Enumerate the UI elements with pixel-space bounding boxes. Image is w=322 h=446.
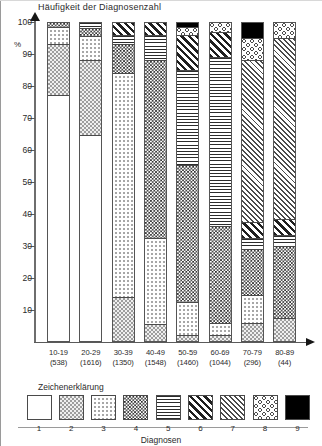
stacked-bar[interactable] (144, 22, 167, 342)
legend-item-5[interactable]: 5 (153, 395, 183, 433)
chart-root: Häufigkeit der Diagnosenzahl % 102030405… (0, 0, 322, 446)
legend-swatch-horizontal-lines (156, 395, 181, 420)
bar-segment-5 (113, 36, 134, 46)
y-axis-tick-label: 80 (23, 81, 32, 91)
bar-segment-8 (177, 28, 198, 36)
bar-segment-6 (210, 33, 231, 58)
y-axis-line (34, 20, 36, 342)
bar-segment-3 (145, 239, 166, 325)
y-axis-tick-label: 20 (23, 273, 32, 283)
bar-segment-3 (48, 28, 69, 45)
legend-swatch-thick-diagonal (188, 395, 213, 420)
bar-segment-2 (113, 298, 134, 341)
bar-segment-6 (145, 23, 166, 36)
legend-label: 4 (121, 424, 151, 433)
legend-item-8[interactable]: 8 (250, 395, 280, 433)
bar-segment-4 (80, 29, 101, 37)
x-axis-arrow-icon (306, 338, 315, 346)
stacked-bar[interactable] (241, 22, 264, 342)
bar-segment-5 (242, 239, 263, 250)
y-axis-tick-label: 60 (23, 145, 32, 155)
bar-segment-2 (242, 324, 263, 341)
y-axis-tick-label: 30 (23, 241, 32, 251)
stacked-bar[interactable] (209, 22, 232, 342)
x-axis-category-count: (44) (262, 358, 308, 367)
y-axis-tick-label: 40 (23, 209, 32, 219)
legend-swatch-fine-hatch (220, 395, 245, 420)
stacked-bar[interactable] (273, 22, 296, 342)
legend-item-2[interactable]: 2 (56, 395, 86, 433)
stacked-bar[interactable] (112, 22, 135, 342)
bar-segment-9 (242, 23, 263, 39)
legend-label: 5 (153, 424, 183, 433)
legend-item-3[interactable]: 3 (89, 395, 119, 433)
bar-segment-3 (80, 37, 101, 61)
legend-swatch-solid-black (285, 395, 310, 420)
bar-segment-3 (113, 74, 134, 298)
x-axis-category: 80-89(44) (262, 348, 308, 367)
bar-segment-2 (80, 61, 101, 136)
stacked-bar[interactable] (176, 22, 199, 342)
legend-label: 8 (250, 424, 280, 433)
legend-item-6[interactable]: 6 (186, 395, 216, 433)
bar-segment-7 (274, 39, 295, 220)
bar-segment-7 (242, 61, 263, 223)
y-axis-tick-label: 100 (18, 17, 32, 27)
y-axis-unit-label: % (14, 40, 21, 49)
bar-segment-3 (210, 324, 231, 337)
bar-segment-5 (274, 236, 295, 247)
stacked-bar[interactable] (79, 22, 102, 342)
bar-segment-8 (242, 39, 263, 61)
legend-label: 1 (24, 424, 54, 433)
x-axis-category-range: 80-89 (262, 348, 308, 357)
bar-segment-4 (145, 61, 166, 239)
legend-swatch-circles (253, 395, 278, 420)
legend-label: 6 (186, 424, 216, 433)
bar-segment-2 (210, 336, 231, 341)
bar-segment-8 (210, 23, 231, 33)
bar-segment-6 (274, 220, 295, 236)
bar-segment-5 (210, 58, 231, 227)
bar-segment-2 (48, 45, 69, 96)
bar-segment-6 (242, 223, 263, 239)
legend-swatch-empty (27, 395, 52, 420)
bar-segment-4 (113, 45, 134, 74)
legend-item-7[interactable]: 7 (218, 395, 248, 433)
legend-item-1[interactable]: 1 (24, 395, 54, 433)
legend-title: Zeichenerklärung (38, 382, 104, 392)
bar-segment-4 (177, 166, 198, 303)
bar-segment-2 (274, 319, 295, 341)
bar-segment-1 (48, 96, 69, 341)
bar-segment-3 (242, 296, 263, 323)
y-axis-tick-label: 50 (23, 177, 32, 187)
plot-area: % 102030405060708090100 10-19(538)20-29(… (0, 18, 322, 348)
bar-segment-8 (274, 23, 295, 39)
y-axis-tick-label: 90 (23, 49, 32, 59)
legend-swatch-checker-gray (59, 395, 84, 420)
y-axis-tick-label: 70 (23, 113, 32, 123)
bar-segment-1 (80, 136, 101, 341)
bar-segment-2 (177, 336, 198, 341)
bar-segment-3 (177, 303, 198, 336)
bar-segment-6 (113, 23, 134, 36)
bar-segment-6 (177, 36, 198, 71)
legend-swatch-dense-checker (123, 395, 148, 420)
bar-segment-4 (274, 247, 295, 319)
legend-label: 7 (218, 424, 248, 433)
legend-label: 2 (56, 424, 86, 433)
y-axis-tick-label: 10 (23, 305, 32, 315)
bar-segment-4 (242, 250, 263, 296)
legend-item-9[interactable]: 9 (282, 395, 312, 433)
legend-label: 3 (89, 424, 119, 433)
legend-swatch-light-dots (91, 395, 116, 420)
bar-segment-5 (145, 36, 166, 61)
stacked-bar[interactable] (47, 22, 70, 342)
frame-top-border (0, 0, 322, 1)
legend-label: 9 (282, 424, 312, 433)
bar-segment-4 (210, 227, 231, 324)
legend-item-4[interactable]: 4 (121, 395, 151, 433)
chart-title: Häufigkeit der Diagnosenzahl (38, 2, 161, 12)
legend: Zeichenerklärung 123456789 Diagnosen (0, 382, 322, 446)
bar-segment-5 (177, 71, 198, 166)
x-axis-line (34, 342, 308, 343)
